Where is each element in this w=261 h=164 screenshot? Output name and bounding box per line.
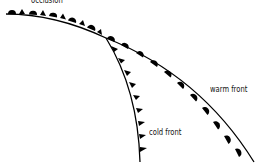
cold-front-line [106,38,140,162]
occlusion-label: occlusion [31,0,63,5]
occlusion-symbols [8,9,102,35]
cold-front-label: cold front [149,128,181,137]
warm-front-line [106,38,254,162]
warm-front-symbols [107,36,241,157]
weather-front-diagram: occlusion warm front cold front [0,0,261,164]
warm-front-label: warm front [210,85,247,94]
fronts-graphic [0,0,261,164]
cold-front-symbols [111,46,147,152]
